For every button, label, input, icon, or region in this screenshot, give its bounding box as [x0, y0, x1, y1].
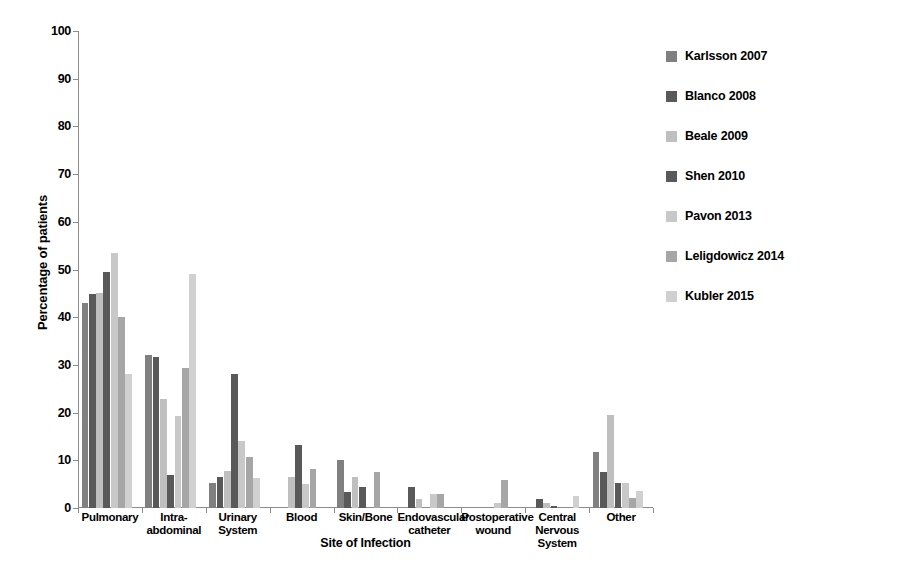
- x-axis-category-label: Endovascular catheter: [397, 511, 461, 537]
- bar: [175, 416, 182, 508]
- legend-swatch-icon: [666, 171, 677, 182]
- x-axis-category-label: Urinary System: [206, 511, 270, 537]
- bar: [160, 399, 167, 508]
- bar: [593, 452, 600, 508]
- bar: [189, 274, 196, 508]
- bar: [82, 303, 89, 508]
- bar: [543, 503, 550, 508]
- bar: [153, 357, 160, 508]
- legend-item[interactable]: Beale 2009: [666, 116, 901, 156]
- bar: [622, 483, 629, 508]
- y-axis-tick-label: 40: [31, 310, 71, 324]
- bar: [295, 445, 302, 508]
- bar: [302, 484, 309, 508]
- x-axis-category-label: Skin/Bone: [334, 511, 398, 524]
- x-axis-category-label: Pulmonary: [78, 511, 142, 524]
- bar: [636, 491, 643, 508]
- bar: [359, 487, 366, 508]
- chart-legend: Karlsson 2007Blanco 2008Beale 2009Shen 2…: [666, 36, 901, 316]
- legend-item[interactable]: Kubler 2015: [666, 276, 901, 316]
- legend-swatch-icon: [666, 91, 677, 102]
- bar: [103, 272, 110, 508]
- legend-label: Karlsson 2007: [685, 49, 767, 63]
- legend-swatch-icon: [666, 131, 677, 142]
- bar-cluster: [206, 31, 270, 508]
- bar: [501, 480, 508, 508]
- bar: [337, 460, 344, 508]
- legend-label: Shen 2010: [685, 169, 745, 183]
- bar: [607, 415, 614, 508]
- bar-cluster: [397, 31, 461, 508]
- legend-label: Kubler 2015: [685, 289, 754, 303]
- bar: [118, 317, 125, 508]
- y-axis-tick-label: 100: [31, 24, 71, 38]
- x-axis-category-label: Postoperative wound: [461, 511, 525, 537]
- y-axis-tick-label: 20: [31, 406, 71, 420]
- y-axis-tick-label: 50: [31, 263, 71, 277]
- y-axis-tick-label: 0: [31, 501, 71, 515]
- bar: [344, 492, 351, 508]
- legend-item[interactable]: Blanco 2008: [666, 76, 901, 116]
- y-axis-tick-label: 70: [31, 167, 71, 181]
- x-axis-title: Site of Infection: [78, 536, 653, 550]
- bar: [253, 478, 260, 508]
- legend-swatch-icon: [666, 51, 677, 62]
- y-axis-tick-label: 60: [31, 215, 71, 229]
- legend-item[interactable]: Leligdowicz 2014: [666, 236, 901, 276]
- bar: [430, 494, 437, 508]
- y-axis-tick-label: 80: [31, 119, 71, 133]
- bar: [111, 253, 118, 508]
- bar: [182, 368, 189, 508]
- legend-swatch-icon: [666, 251, 677, 262]
- bar: [551, 506, 558, 508]
- x-axis-category-label: Blood: [270, 511, 334, 524]
- legend-label: Beale 2009: [685, 129, 748, 143]
- x-axis-category-label: Intra-abdominal: [142, 511, 206, 537]
- bar-cluster: [334, 31, 398, 508]
- bar: [374, 472, 381, 508]
- x-axis-category-label: Other: [589, 511, 653, 524]
- bar: [89, 294, 96, 508]
- bar: [536, 499, 543, 508]
- bar: [437, 494, 444, 508]
- bar: [167, 475, 174, 508]
- bar-cluster: [525, 31, 589, 508]
- bar: [494, 503, 501, 508]
- bar-cluster: [78, 31, 142, 508]
- bar: [288, 477, 295, 508]
- legend-item[interactable]: Shen 2010: [666, 156, 901, 196]
- bar-chart-figure: Percentage of patients 01020304050607080…: [0, 0, 911, 571]
- bar: [145, 355, 152, 508]
- bar-series-container: [78, 31, 653, 508]
- bar: [416, 499, 423, 508]
- bar: [125, 374, 132, 508]
- x-axis-tick-mark: [653, 508, 654, 513]
- y-axis-tick-label: 10: [31, 453, 71, 467]
- bar: [573, 496, 580, 508]
- legend-item[interactable]: Pavon 2013: [666, 196, 901, 236]
- legend-label: Pavon 2013: [685, 209, 752, 223]
- y-axis-tick-label: 30: [31, 358, 71, 372]
- bar: [629, 498, 636, 508]
- bar: [238, 441, 245, 508]
- bar-cluster: [142, 31, 206, 508]
- legend-label: Leligdowicz 2014: [685, 249, 784, 263]
- legend-swatch-icon: [666, 291, 677, 302]
- bar: [615, 483, 622, 508]
- bar: [246, 457, 253, 508]
- bar: [231, 374, 238, 508]
- legend-item[interactable]: Karlsson 2007: [666, 36, 901, 76]
- bar: [600, 472, 607, 508]
- bar: [96, 293, 103, 508]
- legend-label: Blanco 2008: [685, 89, 756, 103]
- plot-area: 0102030405060708090100: [78, 31, 653, 508]
- bar: [209, 483, 216, 508]
- bar: [408, 487, 415, 508]
- legend-swatch-icon: [666, 211, 677, 222]
- bar: [310, 469, 317, 508]
- bar: [217, 477, 224, 508]
- bar-cluster: [270, 31, 334, 508]
- bar: [352, 477, 359, 508]
- bar-cluster: [461, 31, 525, 508]
- y-axis-tick-label: 90: [31, 72, 71, 86]
